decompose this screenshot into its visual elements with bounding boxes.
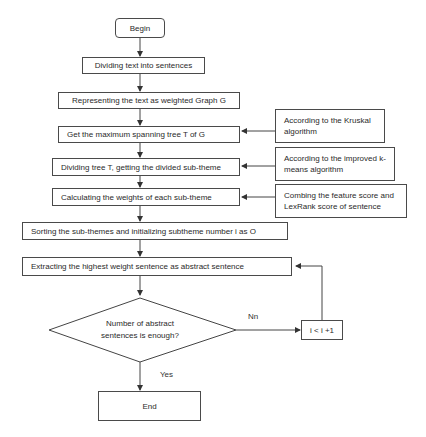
begin-node: Begin (115, 18, 165, 38)
step-weighted-graph: Representing the text as weighted Graph … (58, 92, 240, 109)
step-label: Dividing text into sentences (95, 60, 192, 71)
step-label: Representing the text as weighted Graph … (72, 95, 226, 106)
step-max-spanning-tree: Get the maximum spanning tree T of G (58, 126, 240, 143)
end-node: End (98, 391, 201, 421)
step-dividing-tree: Dividing tree T, getting the divided sub… (52, 158, 240, 176)
increment-node: i < i +1 (301, 320, 343, 340)
step-label: Sorting the sub-themes and initializing … (31, 226, 256, 237)
step-dividing-text: Dividing text into sentences (82, 57, 205, 74)
step-label: Dividing tree T, getting the divided sub… (61, 162, 221, 173)
step-label: Calculating the weights of each sub-them… (61, 192, 212, 203)
note-kruskal: According to the Kruskal algorithm (275, 109, 385, 143)
no-label: Nn (248, 312, 258, 321)
begin-label: Begin (130, 23, 150, 34)
note-label: Combing the feature score and LexRank sc… (284, 190, 398, 212)
increment-label: i < i +1 (310, 325, 334, 336)
note-label: According to the improved k-means algori… (284, 153, 386, 175)
step-extracting-sentence: Extracting the highest weight sentence a… (22, 257, 292, 276)
step-label: Get the maximum spanning tree T of G (67, 129, 205, 140)
yes-label: Yes (160, 370, 173, 379)
step-label: Extracting the highest weight sentence a… (31, 261, 244, 272)
end-label: End (142, 401, 156, 412)
note-lexrank: Combing the feature score and LexRank sc… (275, 184, 407, 218)
note-label: According to the Kruskal algorithm (284, 115, 376, 137)
step-subtheme-weights: Calculating the weights of each sub-them… (52, 188, 240, 206)
decision-label: Number of abstract sentences is enough? (92, 318, 188, 342)
note-kmeans: According to the improved k-means algori… (275, 147, 395, 181)
step-sorting-subthemes: Sorting the sub-themes and initializing … (22, 222, 288, 240)
connector-lines (0, 0, 426, 437)
